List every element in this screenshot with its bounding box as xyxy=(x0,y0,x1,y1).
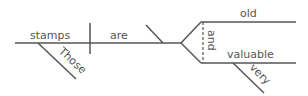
fork-lower xyxy=(181,43,201,63)
adjective-word-valuable: valuable xyxy=(227,48,274,61)
sentence-diagram: stamps are Those old valuable and very xyxy=(0,0,308,96)
predicate-slant xyxy=(146,25,163,43)
fork-upper xyxy=(181,22,201,43)
subject-modifier-word: Those xyxy=(55,44,89,77)
adjective-word-old: old xyxy=(240,7,257,20)
adjective-modifier-word: very xyxy=(247,61,274,88)
conjunction-word: and xyxy=(205,30,218,51)
verb-word: are xyxy=(110,29,128,42)
subject-word: stamps xyxy=(30,29,70,42)
